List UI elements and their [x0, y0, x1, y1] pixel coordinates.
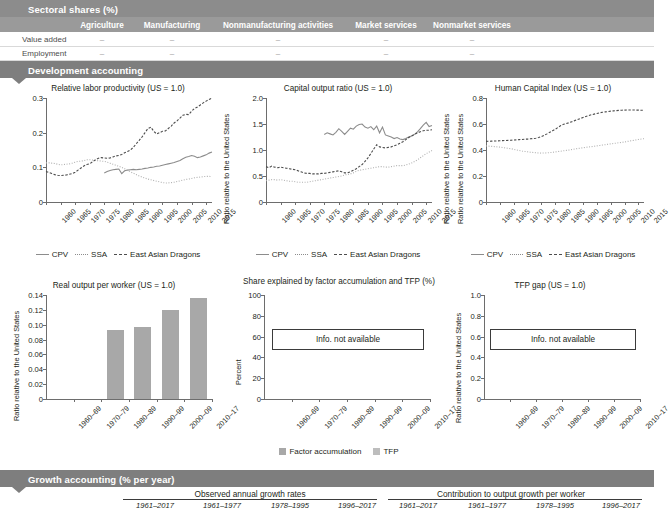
y-axis-tick-label: 0.6 — [472, 120, 483, 129]
period-label: 1961–2017 — [399, 501, 437, 509]
chart-legend: Factor accumulation TFP — [232, 447, 446, 456]
line-dotted-icon — [75, 254, 88, 255]
chart-relative-labor-productivity: Relative labor productivity (US = 1.0) R… — [18, 84, 218, 244]
y-axis-tick — [481, 378, 484, 379]
x-axis-tick — [292, 399, 293, 402]
plot-area: Info. not available 0204060801001960–691… — [264, 295, 430, 399]
legend-label: SSA — [91, 250, 107, 259]
cell-employment-manufacturing: – — [170, 49, 174, 58]
chart-title: Human Capital Index (US = 1.0) — [458, 84, 648, 93]
x-axis-tick — [500, 202, 501, 205]
group-rule — [388, 499, 642, 500]
y-axis-tick — [261, 316, 264, 317]
x-axis-tick-label: 2000–09 — [617, 404, 644, 431]
y-axis-tick-label: 0.2 — [472, 172, 483, 181]
x-axis-tick-label: 2015 — [652, 207, 670, 225]
x-axis-tick-label: 1960 — [60, 207, 78, 225]
y-axis-tick — [261, 337, 264, 338]
x-axis-tick-label: 1990–99 — [377, 404, 404, 431]
y-axis-tick-label: 0.4 — [472, 146, 483, 155]
x-axis-tick-label: 1960–69 — [294, 404, 321, 431]
line-dashed-icon — [549, 254, 562, 255]
y-axis-tick-label: 0.12 — [28, 305, 43, 314]
x-axis-tick — [368, 202, 369, 205]
x-axis-tick-label: 2010–17 — [643, 404, 670, 431]
plot-area: 00.020.040.060.080.100.120.141960–691970… — [46, 295, 212, 399]
sectoral-shares-column-headers: Agriculture Manufacturing Nonmanufacturi… — [0, 17, 654, 32]
period-label: 1961–1977 — [203, 501, 241, 509]
chart-y-axis-label: Ratio relative to the United States — [12, 311, 21, 421]
series-line-ssa — [486, 139, 644, 153]
cell-employment-market-services: – — [384, 49, 388, 58]
y-axis-line — [46, 295, 47, 399]
chart-y-axis-label: Ratio relative to the United States — [454, 313, 463, 423]
legend-item-factor-accumulation: Factor accumulation — [279, 447, 361, 456]
x-axis-tick — [157, 399, 158, 402]
x-axis-tick-label: 1980–89 — [565, 404, 592, 431]
x-axis-tick-label: 1990–99 — [591, 404, 618, 431]
x-axis-tick — [90, 202, 91, 205]
info-not-available-box: Info. not available — [272, 329, 424, 350]
cell-value-added-nonmanufacturing: – — [276, 35, 280, 44]
x-axis-tick — [177, 202, 178, 205]
x-axis-tick-label: 1990–99 — [159, 404, 186, 431]
legend-label: East Asian Dragons — [130, 250, 200, 259]
series-line-ssa — [266, 151, 432, 183]
section-title-sectoral-shares: Sectoral shares (%) — [28, 3, 118, 14]
bar — [134, 327, 151, 399]
x-axis-tick — [597, 202, 598, 205]
x-axis-tick — [510, 399, 511, 402]
x-axis-tick — [426, 202, 427, 205]
column-header-agriculture: Agriculture — [80, 20, 124, 29]
x-axis-tick — [46, 202, 47, 205]
section-band-growth-accounting: Growth accounting (% per year) — [0, 470, 654, 487]
y-axis-tick-label: 0.10 — [28, 320, 43, 329]
legend-label: CPV — [487, 250, 503, 259]
x-axis-tick — [101, 399, 102, 402]
row-label-employment: Employment — [22, 49, 66, 58]
period-label: 1996–2017 — [602, 501, 640, 509]
x-axis-tick — [382, 202, 383, 205]
x-axis-tick-label: 1980–89 — [132, 404, 159, 431]
x-axis-tick-label: 2005 — [411, 207, 429, 225]
group-header-observed-annual-growth-rates: Observed annual growth rates — [194, 489, 305, 499]
plot-area: 00.10.20.3196019651970197519801985199019… — [46, 98, 212, 202]
y-axis-tick — [261, 399, 264, 400]
section-title-growth-accounting: Growth accounting (% per year) — [28, 473, 175, 484]
x-axis-tick — [75, 202, 76, 205]
chart-title: Capital output ratio (US = 1.0) — [238, 84, 438, 93]
x-axis-tick-label: 1970 — [309, 207, 327, 225]
legend-label: CPV — [272, 250, 288, 259]
x-axis-tick — [353, 202, 354, 205]
legend-label: East Asian Dragons — [350, 250, 420, 259]
y-axis-tick-label: 20 — [253, 374, 261, 383]
x-axis-tick — [310, 202, 311, 205]
y-axis-tick-label: 0.06 — [28, 350, 43, 359]
legend-label: SSA — [526, 250, 542, 259]
period-label: 1978–1995 — [536, 501, 574, 509]
x-axis-tick-label: 2005 — [191, 207, 209, 225]
x-axis-tick — [104, 202, 105, 205]
cell-value-added-agriculture: – — [100, 35, 104, 44]
x-axis-tick — [402, 399, 403, 402]
x-axis-line — [46, 202, 212, 203]
plot-area: Info. not available 00.20.40.60.81.01960… — [484, 295, 640, 399]
legend-label: TFP — [383, 447, 398, 456]
y-axis-tick-label: 1.0 — [470, 291, 481, 300]
series-canvas — [486, 98, 644, 202]
chart-title: Share explained by factor accumulation a… — [232, 277, 446, 286]
x-axis-tick — [212, 399, 213, 402]
x-axis-tick-label: 1980 — [118, 207, 136, 225]
legend-item-east-asian-dragons: East Asian Dragons — [114, 250, 200, 259]
x-axis-tick — [162, 202, 163, 205]
y-axis-tick-label: 40 — [253, 353, 261, 362]
line-dashed-icon — [334, 254, 347, 255]
legend-item-ssa: SSA — [75, 250, 107, 259]
column-header-nonmarket-services: Nonmarket services — [433, 20, 511, 29]
chart-human-capital-index: Human Capital Index (US = 1.0) Ratio rel… — [458, 84, 648, 244]
y-axis-tick — [481, 399, 484, 400]
y-axis-tick — [43, 340, 46, 341]
series-canvas — [46, 98, 212, 202]
y-axis-line — [484, 295, 485, 399]
